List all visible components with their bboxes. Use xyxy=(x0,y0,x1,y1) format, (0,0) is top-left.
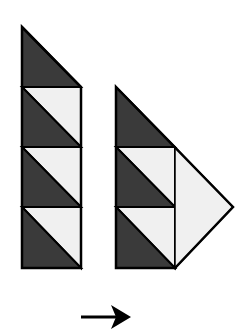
quilt-diagram xyxy=(0,0,245,332)
right-side-light-triangle xyxy=(175,147,233,268)
left-strip xyxy=(22,27,81,268)
right-shape xyxy=(116,87,233,268)
arrow-right-icon xyxy=(81,305,131,329)
